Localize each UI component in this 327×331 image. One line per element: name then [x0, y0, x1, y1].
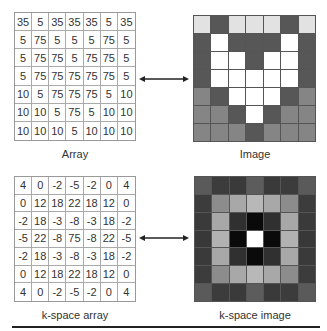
pixel-cell — [246, 16, 262, 33]
grid-cell: 35 — [118, 13, 135, 31]
kspace-image-caption: k-space image — [185, 309, 325, 321]
pixel-cell — [264, 34, 280, 51]
grid-cell: 18 — [84, 195, 101, 213]
pixel-cell — [195, 213, 211, 230]
grid-cell: -2 — [15, 212, 32, 230]
grid-cell: 10 — [32, 104, 49, 122]
double-arrow-icon — [139, 74, 189, 84]
grid-cell: 5 — [49, 104, 66, 122]
grid-cell: 22 — [66, 195, 83, 213]
grid-cell: 10 — [15, 86, 32, 104]
pixel-cell — [229, 70, 245, 87]
pixel-cell — [299, 16, 315, 33]
pixel-cell — [195, 231, 211, 248]
grid-cell: -8 — [84, 230, 101, 248]
grid-cell: -3 — [84, 248, 101, 266]
pixel-cell — [299, 88, 315, 105]
grid-cell: 4 — [15, 283, 32, 301]
grid-cell: -2 — [118, 248, 135, 266]
pixel-cell — [264, 106, 280, 123]
pixel-cell — [230, 231, 246, 248]
grid-cell: 5 — [15, 49, 32, 67]
grid-cell: 18 — [49, 195, 66, 213]
pixel-cell — [247, 213, 263, 230]
grid-cell: 10 — [15, 122, 32, 140]
pixel-cell — [299, 124, 315, 141]
grid-cell: 5 — [101, 13, 118, 31]
pixel-cell — [246, 52, 262, 69]
grid-cell: 12 — [32, 266, 49, 284]
pixel-cell — [212, 248, 228, 265]
grid-cell: 18 — [84, 266, 101, 284]
grid-cell: 5 — [15, 31, 32, 49]
pixel-cell — [194, 88, 210, 105]
pixel-cell — [211, 34, 227, 51]
pixel-cell — [264, 266, 280, 283]
kspace-array-caption: k-space array — [5, 309, 145, 321]
pixel-cell — [211, 124, 227, 141]
grid-cell: 0 — [32, 177, 49, 195]
pixel-cell — [281, 177, 297, 194]
grid-cell: 0 — [118, 266, 135, 284]
grid-cell: 4 — [15, 177, 32, 195]
pixel-cell — [229, 88, 245, 105]
pixel-cell — [299, 231, 315, 248]
pixel-cell — [194, 124, 210, 141]
grid-cell: 5 — [118, 49, 135, 67]
grid-cell: -2 — [84, 283, 101, 301]
grid-cell: 4 — [118, 177, 135, 195]
pixel-cell — [212, 195, 228, 212]
pixel-cell — [195, 195, 211, 212]
grid-cell: -3 — [84, 212, 101, 230]
grid-cell: 5 — [32, 13, 49, 31]
grid-cell: 22 — [32, 230, 49, 248]
grid-cell: 18 — [32, 248, 49, 266]
pixel-cell — [211, 70, 227, 87]
pixel-cell — [194, 106, 210, 123]
grid-cell: 12 — [101, 195, 118, 213]
pixel-cell — [212, 213, 228, 230]
grid-cell: -5 — [66, 177, 83, 195]
pixel-cell — [247, 248, 263, 265]
grid-cell: 75 — [101, 67, 118, 85]
pixel-cell — [246, 34, 262, 51]
pixel-cell — [230, 266, 246, 283]
pixel-cell — [212, 284, 228, 301]
pixel-cell — [281, 52, 297, 69]
pixel-cell — [211, 106, 227, 123]
grid-cell: 10 — [49, 122, 66, 140]
grid-cell: 5 — [66, 49, 83, 67]
pixel-cell — [195, 266, 211, 283]
pixel-cell — [211, 52, 227, 69]
grid-cell: 10 — [84, 122, 101, 140]
grid-cell: 0 — [101, 283, 118, 301]
pixel-cell — [264, 284, 280, 301]
grid-cell: 5 — [66, 122, 83, 140]
pixel-cell — [229, 106, 245, 123]
pixel-cell — [229, 16, 245, 33]
grid-cell: 18 — [101, 248, 118, 266]
pixel-cell — [281, 106, 297, 123]
pixel-cell — [194, 34, 210, 51]
pixel-cell — [230, 195, 246, 212]
pixel-cell — [264, 195, 280, 212]
pixel-cell — [299, 284, 315, 301]
pixel-cell — [281, 284, 297, 301]
pixel-cell — [211, 88, 227, 105]
grid-cell: 0 — [15, 195, 32, 213]
pixel-cell — [246, 88, 262, 105]
kspace-array-grid: 40-2-5-204012182218120-218-3-8-318-2-522… — [14, 176, 136, 302]
pixel-cell — [229, 52, 245, 69]
pixel-cell — [281, 213, 297, 230]
grid-cell: 5 — [84, 104, 101, 122]
double-arrow-icon — [139, 233, 189, 243]
pixel-cell — [247, 266, 263, 283]
grid-cell: 10 — [101, 104, 118, 122]
pixel-cell — [195, 177, 211, 194]
grid-cell: 5 — [66, 31, 83, 49]
grid-cell: -3 — [49, 212, 66, 230]
pixel-cell — [281, 248, 297, 265]
pixel-cell — [281, 231, 297, 248]
image-caption: Image — [185, 148, 325, 160]
pixel-cell — [264, 124, 280, 141]
